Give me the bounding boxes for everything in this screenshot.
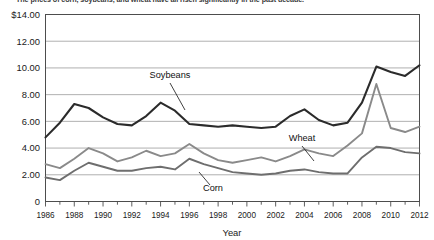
y-tick-label: 10.00 [17, 62, 40, 73]
plot-frame [46, 15, 420, 202]
x-tick-label: 2008 [353, 211, 372, 220]
x-tick-label: 2004 [295, 211, 314, 220]
annotation-leader-soybeans [170, 83, 185, 110]
x-axis-title: Year [223, 227, 242, 238]
x-tick-label: 1992 [123, 211, 142, 220]
data-series-group [46, 65, 420, 180]
series-label-wheat: Wheat [289, 133, 316, 143]
x-tick-label: 1998 [209, 211, 228, 220]
y-tick-label: 4.00 [22, 142, 40, 153]
y-tick-label: $14.00 [11, 9, 40, 20]
y-tick-label: 0 [35, 196, 40, 207]
x-tick-label: 1994 [151, 211, 170, 220]
x-tick-label: 2006 [324, 211, 343, 220]
x-tick-label: 2012 [410, 211, 429, 220]
x-tick-label: 1996 [180, 211, 199, 220]
y-axis-tick-labels: $14.0012.0010.008.006.004.002.000 [11, 9, 40, 207]
y-tick-label: 6.00 [22, 116, 40, 127]
x-tick-label: 1988 [65, 211, 84, 220]
x-tick-label: 2002 [267, 211, 286, 220]
chart-figure: The prices of corn, soybeans, and wheat … [0, 0, 434, 240]
x-tick-label: 2010 [382, 211, 401, 220]
line-chart: $14.0012.0010.008.006.004.002.000 198619… [0, 0, 434, 240]
gridlines [46, 41, 420, 175]
x-tick-label: 2000 [238, 211, 257, 220]
x-tick-label: 1990 [94, 211, 113, 220]
plot-border [46, 15, 420, 202]
series-label-corn: Corn [203, 183, 223, 193]
series-label-soybeans: Soybeans [150, 70, 191, 80]
y-tick-label: 2.00 [22, 169, 40, 180]
x-axis-tick-labels: 1986198819901992199419961998200020022004… [36, 211, 429, 220]
y-tick-label: 12.00 [17, 36, 40, 47]
y-tick-label: 8.00 [22, 89, 40, 100]
x-axis-tick-marks [46, 202, 420, 207]
x-tick-label: 1986 [36, 211, 55, 220]
